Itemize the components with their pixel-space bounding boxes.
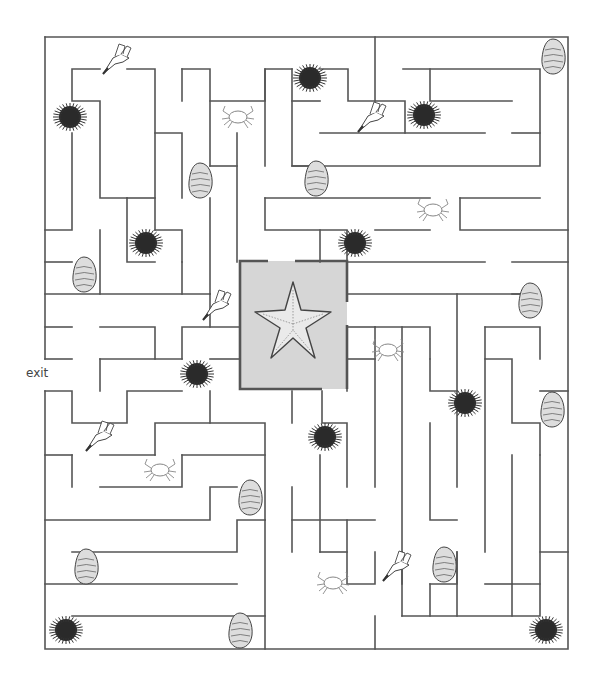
maze-board [0, 0, 595, 680]
exit-label: exit [26, 366, 48, 380]
